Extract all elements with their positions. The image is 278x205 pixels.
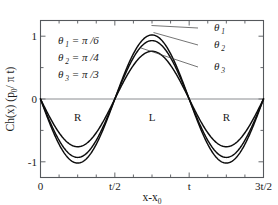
x-tick-label: t bbox=[188, 180, 191, 192]
region-annotations: RLR bbox=[74, 111, 231, 123]
region-r-right: R bbox=[223, 111, 231, 123]
x-tick-label: 3t/2 bbox=[255, 180, 272, 192]
y-tick-label: 0 bbox=[32, 93, 38, 105]
region-r-left: R bbox=[74, 111, 82, 123]
y-tick-label: 1 bbox=[32, 30, 38, 42]
leader-line-theta1 bbox=[152, 26, 199, 29]
figure-container: 0t/2t3t/2 10-1 RLR θ 1θ 2θ 3 θ 1 = π /6θ… bbox=[0, 0, 278, 205]
y-tick-label: -1 bbox=[28, 156, 37, 168]
chart-svg: 0t/2t3t/2 10-1 RLR θ 1θ 2θ 3 θ 1 = π /6θ… bbox=[0, 0, 278, 205]
leader-lines-layer bbox=[141, 26, 198, 68]
y-axis-tick-labels: 10-1 bbox=[28, 30, 38, 168]
curve-label-theta1: θ 1 bbox=[214, 21, 225, 36]
curve-label-theta3: θ 3 bbox=[214, 60, 225, 75]
curve-labels: θ 1θ 2θ 3 bbox=[214, 21, 225, 75]
legend: θ 1 = π /6θ 2 = π /4θ 3 = π /3 bbox=[58, 34, 99, 83]
curve-label-theta2: θ 2 bbox=[214, 38, 225, 53]
legend-entry-2: θ 2 = π /4 bbox=[58, 51, 99, 66]
legend-entry-3: θ 3 = π /3 bbox=[58, 68, 99, 83]
x-tick-label: 0 bbox=[38, 180, 44, 192]
region-l-center: L bbox=[149, 111, 156, 123]
x-tick-label: t/2 bbox=[109, 180, 121, 192]
y-axis-title: Ch(x) (p0/ π t) bbox=[4, 66, 19, 131]
legend-entry-1: θ 1 = π /6 bbox=[58, 34, 99, 49]
x-axis-title: x-x0 bbox=[142, 191, 161, 205]
